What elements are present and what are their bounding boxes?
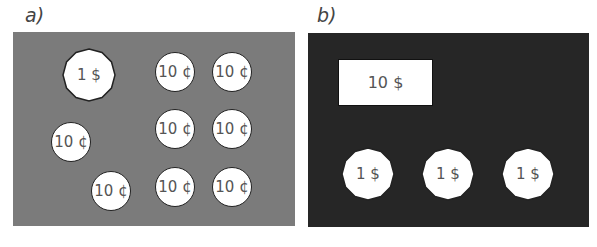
dollar-coin: 1 $ [501,147,555,201]
ten-dollar-bill: 10 $ [338,59,433,106]
panel-a: 1 $ 10 ¢ 10 ¢ 10 ¢ 10 ¢ 10 ¢ 10 ¢ 10 ¢ 1… [13,32,295,226]
dime-coin: 10 ¢ [155,109,195,149]
panel-b: 10 $ 1 $ 1 $ 1 $ [308,33,589,227]
dime-coin: 10 ¢ [212,52,252,92]
dime-coin: 10 ¢ [212,109,252,149]
panel-a-label: a) [25,4,44,26]
dollar-coin: 1 $ [341,147,395,201]
dollar-coin: 1 $ [421,147,475,201]
dollar-coin: 1 $ [62,48,116,102]
panel-b-label: b) [317,4,336,26]
dime-coin: 10 ¢ [155,52,195,92]
dime-coin: 10 ¢ [91,171,131,211]
dime-coin: 10 ¢ [155,167,195,207]
dime-coin: 10 ¢ [51,122,91,162]
dime-coin: 10 ¢ [212,167,252,207]
